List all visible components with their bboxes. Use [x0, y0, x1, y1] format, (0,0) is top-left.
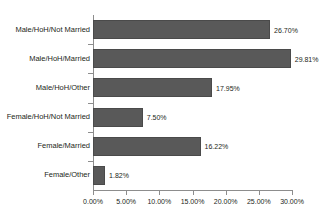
bar-value-label: 16.22% — [205, 142, 229, 151]
category-label: Male/HoH/Other — [0, 83, 90, 93]
category-label: Female/Other — [0, 170, 90, 180]
bar-value-label: 26.70% — [274, 25, 298, 34]
bar-value-label: 17.95% — [216, 83, 240, 92]
bar — [93, 20, 270, 39]
bar — [93, 166, 105, 185]
bar-row: 29.81% — [93, 49, 292, 68]
x-axis-tick-label: 25.00% — [247, 197, 271, 206]
x-axis-tick-label: 15.00% — [181, 197, 205, 206]
bar — [93, 49, 291, 68]
bar-value-label: 29.81% — [295, 54, 319, 63]
x-axis-tick-label: 0.00% — [83, 197, 103, 206]
bar-value-label: 7.50% — [147, 113, 167, 122]
x-axis-tick — [259, 191, 260, 195]
x-axis-tick-label: 5.00% — [116, 197, 136, 206]
x-axis-tick — [226, 191, 227, 195]
bar-row: 16.22% — [93, 137, 292, 156]
category-label: Male/HoH/Not Married — [0, 25, 90, 35]
bar-row: 1.82% — [93, 166, 292, 185]
bar-row: 7.50% — [93, 108, 292, 127]
x-axis-tick — [292, 191, 293, 195]
x-axis-tick — [193, 191, 194, 195]
x-axis-tick — [159, 191, 160, 195]
bar-chart: 0.00%5.00%10.00%15.00%20.00%25.00%30.00%… — [0, 0, 320, 221]
x-axis-tick — [126, 191, 127, 195]
category-label: Male/HoH/Married — [0, 54, 90, 64]
category-label: Female/Married — [0, 141, 90, 151]
x-axis-tick — [93, 191, 94, 195]
bar — [93, 137, 201, 156]
x-axis-tick-label: 20.00% — [214, 197, 238, 206]
bar — [93, 108, 143, 127]
bar-row: 17.95% — [93, 78, 292, 97]
x-axis-tick-label: 30.00% — [280, 197, 304, 206]
bar-row: 26.70% — [93, 20, 292, 39]
bar — [93, 78, 212, 97]
category-label: Female/HoH/Not Married — [0, 112, 90, 122]
x-axis-tick-label: 10.00% — [147, 197, 171, 206]
plot-area: 26.70%29.81%17.95%7.50%16.22%1.82% — [93, 15, 292, 190]
bar-value-label: 1.82% — [109, 171, 129, 180]
